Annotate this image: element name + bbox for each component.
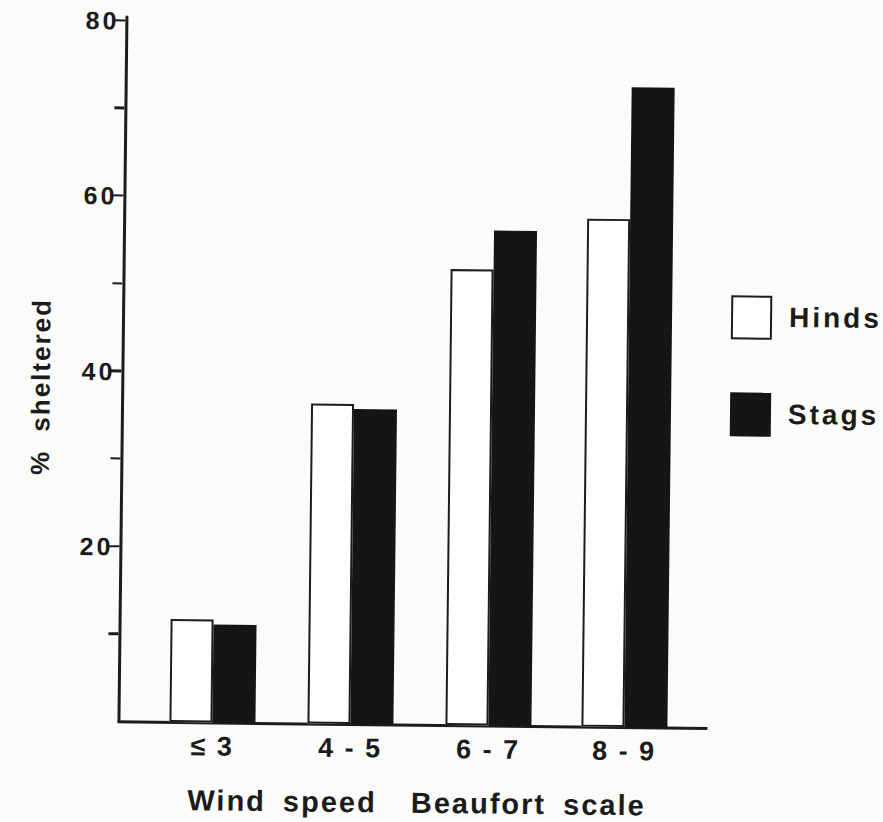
y-minor-tick-70 bbox=[114, 107, 124, 110]
y-tick-label-20: 20 bbox=[51, 530, 113, 561]
y-minor-tick-10 bbox=[108, 632, 118, 635]
y-tick-label-40: 40 bbox=[53, 355, 115, 386]
legend-label-hinds: Hinds bbox=[789, 302, 882, 335]
legend-label-stags: Stags bbox=[788, 399, 880, 432]
stags-filled-swatch-icon bbox=[730, 392, 771, 436]
x-axis-title: Wind speed Beaufort scale bbox=[187, 784, 646, 822]
x-tick-label-3: 6 - 7 bbox=[456, 734, 520, 766]
y-axis-ticks: 20406080 bbox=[5, 0, 881, 5]
y-minor-tick-30 bbox=[110, 457, 120, 460]
bar-hinds-2 bbox=[307, 404, 354, 724]
x-tick-label-1: ≤ 3 bbox=[190, 731, 234, 762]
bar-hinds-3 bbox=[445, 269, 493, 725]
legend-entry-stags: Stags bbox=[730, 392, 880, 438]
y-tick-label-80: 80 bbox=[57, 5, 119, 36]
bar-stags-4 bbox=[624, 87, 674, 727]
bar-stags-2 bbox=[350, 409, 397, 724]
bar-stags-3 bbox=[488, 231, 537, 726]
x-tick-label-2: 4 - 5 bbox=[318, 733, 382, 765]
y-axis-title: % sheltered bbox=[25, 298, 58, 475]
bar-groups bbox=[5, 0, 881, 5]
x-axis-tick-labels: ≤ 34 - 56 - 78 - 9 bbox=[5, 0, 881, 5]
bar-chart: 20406080 ≤ 34 - 56 - 78 - 9 % sheltered … bbox=[0, 0, 881, 822]
hinds-open-swatch-icon bbox=[731, 295, 772, 339]
y-tick-label-60: 60 bbox=[55, 180, 117, 211]
legend: Hinds Stags bbox=[735, 3, 881, 5]
bar-stags-1 bbox=[212, 624, 256, 722]
bar-hinds-4 bbox=[581, 219, 630, 727]
x-tick-label-4: 8 - 9 bbox=[592, 736, 656, 768]
bar-hinds-1 bbox=[169, 619, 213, 722]
legend-entry-hinds: Hinds bbox=[731, 295, 882, 341]
y-minor-tick-50 bbox=[112, 282, 122, 285]
